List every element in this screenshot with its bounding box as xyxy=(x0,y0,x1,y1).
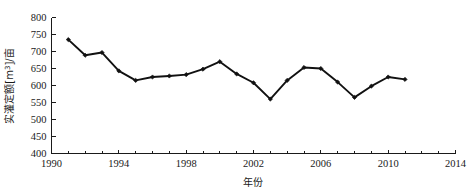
y-axis-tick-label: 450 xyxy=(31,131,47,142)
x-axis-tick-label: 1990 xyxy=(41,158,62,169)
data-point-marker xyxy=(150,75,154,79)
svg-text:实灌定额[m3]/亩: 实灌定额[m3]/亩 xyxy=(3,48,15,123)
y-axis-tick-marks xyxy=(52,18,56,154)
y-axis-tick-label: 750 xyxy=(31,29,47,40)
x-axis-tick-label: 2010 xyxy=(378,158,399,169)
y-axis-tick-label: 700 xyxy=(31,46,47,57)
data-point-marker xyxy=(403,77,407,81)
x-axis-title: 年份 xyxy=(243,176,263,188)
y-axis-title-prefix: 实灌定额[m xyxy=(3,70,15,124)
chart-figure: 400450500550600650700750800 199019941998… xyxy=(0,0,472,191)
y-axis-tick-label: 500 xyxy=(31,114,47,125)
x-axis-tick-label: 2002 xyxy=(243,158,264,169)
x-axis-tick-label: 1994 xyxy=(108,158,130,169)
y-axis-tick-label: 800 xyxy=(31,12,47,23)
x-axis-tick-label: 1998 xyxy=(176,158,197,169)
line-chart: 400450500550600650700750800 199019941998… xyxy=(0,0,472,191)
y-axis-title: 实灌定额[m3]/亩 xyxy=(3,48,15,123)
data-point-marker xyxy=(167,74,171,78)
x-axis-tick-label: 2014 xyxy=(445,158,467,169)
y-axis-tick-label: 550 xyxy=(31,97,47,108)
x-axis-tick-marks xyxy=(52,150,456,154)
x-axis-tick-label: 2006 xyxy=(310,158,331,169)
y-axis-title-suffix: ]/亩 xyxy=(3,48,15,65)
y-axis-tick-label: 650 xyxy=(31,63,47,74)
y-axis-tick-label: 600 xyxy=(31,80,47,91)
x-axis-tick-labels: 1990199419982002200620102014 xyxy=(41,158,467,169)
y-axis-tick-labels: 400450500550600650700750800 xyxy=(31,12,47,159)
